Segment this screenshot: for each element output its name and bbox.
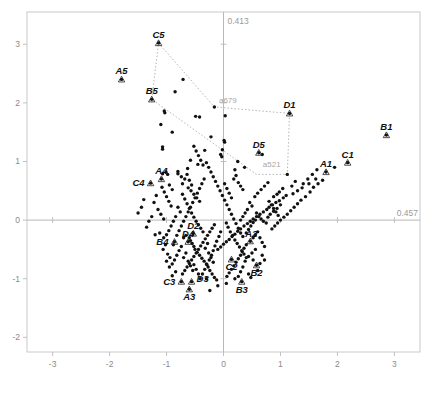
data-point <box>196 163 199 166</box>
data-point <box>194 115 197 118</box>
data-point <box>183 197 186 200</box>
data-point <box>270 203 273 206</box>
data-point <box>228 208 231 211</box>
data-point <box>274 210 277 213</box>
data-point <box>223 182 226 185</box>
data-point <box>163 111 166 114</box>
data-point <box>210 227 213 230</box>
data-point <box>239 270 242 273</box>
data-point <box>203 268 206 271</box>
data-point <box>221 194 224 197</box>
data-point <box>237 181 240 184</box>
point-label-d4: D4 <box>182 228 195 239</box>
data-point <box>158 231 161 234</box>
data-point <box>192 255 195 258</box>
data-point <box>292 206 295 209</box>
data-point <box>278 199 281 202</box>
data-point <box>177 249 180 252</box>
data-point <box>185 265 188 268</box>
point-label-b4: B4 <box>156 236 169 247</box>
data-point <box>296 202 299 205</box>
data-point <box>241 188 244 191</box>
data-point <box>286 213 289 216</box>
data-point <box>202 177 205 180</box>
data-point <box>150 215 153 218</box>
data-point <box>209 135 212 138</box>
data-point <box>279 203 282 206</box>
data-point <box>291 192 294 195</box>
data-point <box>290 184 293 187</box>
data-point <box>243 259 246 262</box>
data-point <box>196 191 199 194</box>
point-label-d5: D5 <box>253 139 266 150</box>
data-point <box>218 189 221 192</box>
data-point <box>168 265 171 268</box>
data-point <box>193 248 196 251</box>
gray-annotation-a521: a521 <box>263 160 281 169</box>
data-point <box>185 202 188 205</box>
data-point <box>275 207 278 210</box>
data-point <box>223 198 226 201</box>
data-point <box>215 278 218 281</box>
point-label-b3: B3 <box>236 284 249 295</box>
data-point <box>308 190 311 193</box>
data-point <box>168 256 171 259</box>
data-point <box>258 236 261 239</box>
data-point <box>190 211 193 214</box>
point-label-d1: D1 <box>283 99 295 110</box>
point-label-a2: A2 <box>244 228 258 239</box>
data-point <box>169 204 172 207</box>
data-point <box>270 227 273 230</box>
data-point <box>198 254 201 257</box>
x-tick-label: -2 <box>106 359 114 369</box>
data-point <box>198 187 201 190</box>
point-label-b1: B1 <box>380 121 392 132</box>
point-label-a4: A4 <box>154 165 168 176</box>
data-point <box>269 213 272 216</box>
plot-canvas: -3-2-101233210-1-2 C5A5B5D1B1D5C1A1A4C4D… <box>0 0 441 394</box>
data-point <box>225 221 228 224</box>
data-point <box>316 182 319 185</box>
horizontal-axis-value-label: 0.457 <box>397 208 419 218</box>
data-point <box>233 168 236 171</box>
data-point <box>182 220 185 223</box>
data-point <box>239 184 242 187</box>
data-point <box>189 159 192 162</box>
data-point <box>198 115 201 118</box>
data-point <box>207 251 210 254</box>
data-point <box>181 78 184 81</box>
point-label-a3: A3 <box>182 291 196 302</box>
data-point <box>204 247 207 250</box>
data-point <box>205 161 208 164</box>
data-point <box>262 210 265 213</box>
point-label-c2: C2 <box>225 261 238 272</box>
data-point <box>263 184 266 187</box>
data-point <box>192 145 195 148</box>
data-point <box>161 147 164 150</box>
data-point <box>216 284 219 287</box>
vertical-axis-value-label: 0.413 <box>228 16 250 26</box>
data-point <box>190 258 193 261</box>
data-point <box>257 215 260 218</box>
data-point <box>254 248 257 251</box>
data-point <box>241 265 244 268</box>
data-point <box>299 198 302 201</box>
data-point <box>192 215 195 218</box>
data-point <box>181 193 184 196</box>
data-point <box>314 177 317 180</box>
data-point <box>212 261 215 264</box>
data-point <box>189 264 192 267</box>
data-point <box>201 230 204 233</box>
data-point <box>202 259 205 262</box>
data-point <box>184 215 187 218</box>
data-point <box>206 242 209 245</box>
data-point <box>201 163 204 166</box>
data-point <box>189 189 192 192</box>
data-point <box>205 263 208 266</box>
data-point <box>263 258 266 261</box>
data-point <box>243 211 246 214</box>
data-point <box>241 215 244 218</box>
y-tick-label: -1 <box>12 274 20 284</box>
data-point <box>250 204 253 207</box>
data-point <box>233 238 236 241</box>
